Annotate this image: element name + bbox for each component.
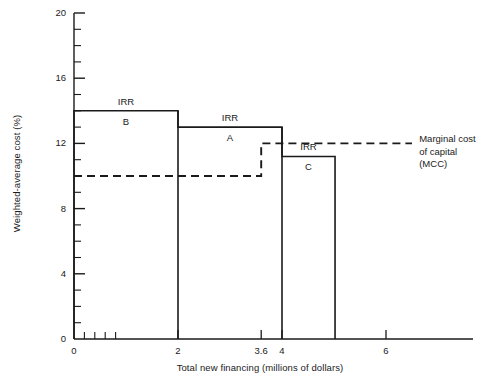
irr-step-name: IRR — [96, 96, 156, 107]
mcc-step-line — [74, 143, 412, 176]
x-axis-tick-label: 6 — [366, 345, 406, 356]
y-axis-tick-label: 12 — [32, 137, 66, 148]
y-axis-tick-label: 20 — [32, 7, 66, 18]
chart-plot-svg — [0, 0, 481, 382]
irr-step-project-id: A — [200, 132, 260, 143]
y-axis-tick-label: 4 — [32, 268, 66, 279]
y-axis-tick-label: 8 — [32, 203, 66, 214]
y-axis-tick-label: 16 — [32, 72, 66, 83]
y-axis-title: Weighted-average cost (%) — [11, 74, 22, 274]
irr-step-name: IRR — [200, 112, 260, 123]
irr-step-project-id: C — [279, 161, 339, 172]
mcc-callout: Marginal cost of capital (MCC) — [419, 133, 476, 171]
y-axis-tick-label: 0 — [32, 333, 66, 344]
x-axis-tick-label: 2 — [158, 345, 198, 356]
irr-step-project-id: B — [96, 116, 156, 127]
irr-step-name: IRR — [279, 141, 339, 152]
x-axis-tick-label: 4 — [262, 345, 302, 356]
chart-container: Weighted-average cost (%) Total new fina… — [0, 0, 481, 382]
x-axis-title: Total new financing (millions of dollars… — [130, 362, 390, 373]
mcc-schedule-path — [74, 143, 412, 176]
x-axis-tick-label: 0 — [54, 345, 94, 356]
